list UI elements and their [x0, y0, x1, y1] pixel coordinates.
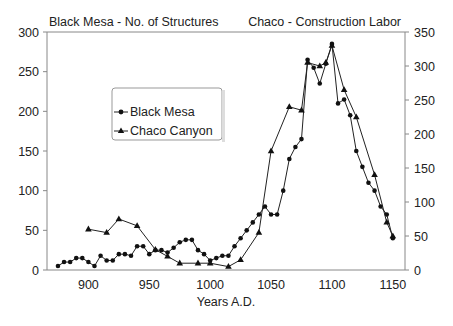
y-tick-label: 100: [18, 184, 39, 198]
circle-marker-icon: [98, 253, 103, 258]
y2-tick-label: 50: [414, 230, 428, 244]
circle-marker-icon: [141, 244, 146, 249]
circle-marker-icon: [281, 188, 286, 193]
circle-marker-icon: [287, 157, 292, 162]
circle-marker-icon: [123, 252, 128, 257]
legend-label: Chaco Canyon: [130, 124, 213, 138]
circle-marker-icon: [92, 264, 97, 269]
x-axis: 9009501000105011001150: [78, 278, 406, 292]
left-axis-title: Black Mesa - No. of Structures: [49, 15, 219, 29]
legend: Black Mesa Chaco Canyon: [112, 88, 225, 142]
circle-marker-icon: [257, 212, 262, 217]
series-lines: [56, 42, 396, 269]
x-tick-label: 1150: [379, 278, 406, 292]
plot-frame: [47, 32, 405, 270]
circle-marker-icon: [184, 238, 189, 243]
circle-marker-icon: [80, 256, 85, 261]
y-tick-label: 200: [18, 105, 39, 119]
circle-marker-icon: [275, 212, 280, 217]
triangle-marker-icon: [353, 113, 360, 119]
y2-tick-label: 250: [414, 94, 435, 108]
right-axis-title: Chaco - Construction Labor: [248, 15, 401, 29]
triangle-marker-icon: [390, 232, 397, 238]
series-chaco-canyon: [85, 42, 396, 269]
chart-svg: 050100150200250300 050100150200250300350…: [0, 0, 453, 326]
circle-marker-icon: [117, 252, 122, 257]
circle-marker-icon: [147, 252, 152, 257]
circle-marker-icon: [244, 228, 249, 233]
triangle-marker-icon: [85, 226, 92, 232]
x-tick-label: 1100: [318, 278, 345, 292]
circle-marker-icon: [226, 253, 231, 258]
y-tick-label: 300: [18, 26, 39, 40]
x-tick-label: 950: [139, 278, 160, 292]
circle-marker-icon: [56, 264, 61, 269]
x-tick-label: 1050: [257, 278, 285, 292]
circle-marker-icon: [232, 244, 237, 249]
circle-marker-icon: [360, 165, 365, 170]
y-tick-label: 250: [18, 65, 39, 79]
triangle-marker-icon: [329, 42, 336, 48]
circle-marker-icon: [372, 188, 377, 193]
circle-marker-icon: [74, 256, 79, 261]
triangle-marker-icon: [176, 260, 183, 266]
series-line: [88, 46, 392, 267]
left-y-axis: 050100150200250300: [18, 26, 47, 278]
triangle-marker-icon: [116, 215, 123, 221]
circle-marker-icon: [336, 101, 341, 106]
y2-tick-label: 300: [414, 60, 435, 74]
circle-marker-icon: [299, 137, 304, 142]
triangle-marker-icon: [304, 59, 311, 65]
y2-tick-label: 200: [414, 128, 435, 142]
circle-marker-icon: [250, 220, 255, 225]
circle-marker-icon: [269, 212, 274, 217]
x-axis-label: Years A.D.: [197, 295, 256, 309]
triangle-marker-icon: [371, 171, 378, 177]
triangle-marker-icon: [323, 59, 330, 65]
circle-marker-icon: [196, 248, 201, 253]
circle-marker-icon: [177, 240, 182, 245]
circle-marker-icon: [62, 260, 67, 265]
circle-marker-icon: [342, 97, 347, 102]
x-tick-label: 900: [78, 278, 99, 292]
triangle-marker-icon: [256, 229, 263, 235]
triangle-marker-icon: [286, 103, 293, 109]
y2-tick-label: 150: [414, 162, 435, 176]
circle-marker-icon: [293, 145, 298, 150]
y-tick-label: 50: [25, 224, 39, 238]
triangle-marker-icon: [207, 260, 214, 266]
legend-label: Black Mesa: [130, 105, 195, 119]
circle-marker-icon: [366, 180, 371, 185]
right-y-axis: 050100150200250300350: [405, 26, 435, 278]
x-tick-label: 1000: [196, 278, 224, 292]
y-tick-label: 150: [18, 145, 39, 159]
dual-axis-line-chart: 050100150200250300 050100150200250300350…: [0, 0, 453, 326]
circle-marker-icon: [202, 252, 207, 257]
y-tick-label: 0: [32, 264, 39, 278]
legend-shadow: [222, 90, 225, 142]
triangle-marker-icon: [195, 260, 202, 266]
triangle-marker-icon: [341, 86, 348, 92]
circle-marker-icon: [190, 238, 195, 243]
circle-marker-icon: [135, 244, 140, 249]
circle-marker-icon: [119, 110, 124, 115]
circle-marker-icon: [311, 65, 316, 70]
circle-marker-icon: [86, 260, 91, 265]
circle-marker-icon: [317, 81, 322, 86]
circle-marker-icon: [220, 253, 225, 258]
circle-marker-icon: [68, 260, 73, 265]
circle-marker-icon: [110, 258, 115, 263]
triangle-marker-icon: [268, 147, 275, 153]
circle-marker-icon: [104, 258, 109, 263]
circle-marker-icon: [214, 256, 219, 261]
y2-tick-label: 350: [414, 26, 435, 40]
y2-tick-label: 100: [414, 196, 435, 210]
triangle-marker-icon: [164, 253, 171, 259]
circle-marker-icon: [171, 245, 176, 250]
circle-marker-icon: [354, 149, 359, 154]
circle-marker-icon: [129, 253, 134, 258]
y2-tick-label: 0: [414, 264, 421, 278]
circle-marker-icon: [348, 113, 353, 118]
circle-marker-icon: [238, 236, 243, 241]
